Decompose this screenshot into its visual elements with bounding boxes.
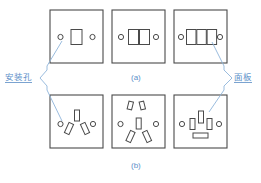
vertical-pin-slot: [190, 119, 195, 130]
mounting-hole-icon: [217, 34, 222, 39]
mounting-hole-icon: [178, 34, 183, 39]
mounting-hole-icon: [58, 121, 63, 126]
mounting-hole-icon: [179, 121, 184, 126]
socket-panel-diagram: [0, 0, 261, 183]
panel-double-gang-switch: [112, 10, 165, 63]
mounting-hole-icon: [90, 121, 95, 126]
rocker-opening: [71, 30, 82, 45]
earth-pin-slot: [75, 110, 80, 121]
mounting-hole-icon: [58, 34, 63, 39]
rocker-opening: [197, 30, 207, 45]
mounting-hole-icon: [153, 121, 158, 126]
panel-three-pin-socket: [50, 95, 103, 148]
earth-pin-slot: [136, 118, 141, 129]
panel-single-gang-switch: [50, 10, 103, 63]
rocker-opening: [187, 30, 197, 45]
mounting-hole-icon: [153, 34, 158, 39]
mounting-hole-icon: [216, 121, 221, 126]
panel-combination-socket: [174, 95, 227, 148]
mounting-hole-icon: [90, 34, 95, 39]
panel-five-pin-socket: [112, 95, 165, 148]
vertical-pin-slot: [207, 119, 212, 130]
horizontal-pin-slot: [193, 133, 208, 138]
caption-b: (b): [131, 161, 141, 171]
label-panel: 面板: [234, 72, 252, 83]
label-mounting-hole: 安装孔: [5, 72, 32, 83]
mounting-hole-icon: [118, 34, 123, 39]
mounting-hole-icon: [118, 121, 123, 126]
vertical-pin-slot-center: [199, 111, 204, 123]
caption-a: (a): [131, 73, 141, 83]
panel-triple-gang-switch: [174, 10, 227, 63]
rocker-opening: [129, 30, 139, 45]
rocker-opening: [140, 30, 150, 45]
